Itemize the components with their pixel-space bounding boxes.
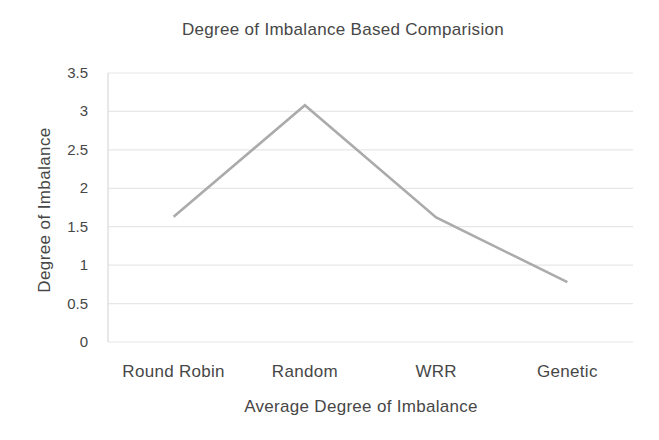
line-chart-figure: Degree of Imbalance Based Comparision De… [0,0,659,440]
y-tick-label: 1.5 [0,218,88,236]
y-tick-label: 2.5 [0,141,88,159]
y-tick-label: 0 [0,333,88,351]
y-tick-label: 1 [0,256,88,274]
y-tick-label: 3 [0,102,88,120]
series-line [174,105,568,282]
x-category-label: Genetic [487,362,647,382]
y-tick-label: 3.5 [0,64,88,82]
x-axis-title: Average Degree of Imbalance [228,397,494,417]
y-tick-label: 0.5 [0,295,88,313]
y-tick-label: 2 [0,179,88,197]
